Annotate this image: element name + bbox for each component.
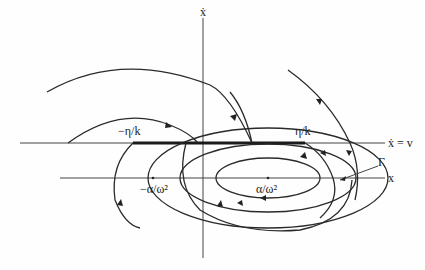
arrow-icon — [346, 150, 352, 156]
arrow-icon — [316, 99, 322, 105]
arrow-icon — [300, 152, 307, 159]
vertical-axis-label: ẋ — [200, 5, 206, 19]
arrow-icon — [230, 114, 237, 121]
pos-eta-k-label: η/k — [295, 124, 311, 138]
neg-equilibrium-dot — [152, 177, 155, 180]
arrow-icon — [237, 200, 243, 206]
gamma-label: Γ — [378, 155, 385, 169]
phase-portrait-svg: ẋ ẋ = v x −η/k η/k −α/ω² α/ω² Γ — [0, 0, 425, 270]
neg-alpha-omega-label: −α/ω² — [140, 182, 168, 196]
velocity-line-label: ẋ = v — [388, 136, 413, 150]
pos-equilibrium-dot — [267, 177, 270, 180]
arc-left-lower — [114, 143, 140, 228]
phase-portrait-figure: ẋ ẋ = v x −η/k η/k −α/ω² α/ω² Γ — [0, 0, 425, 270]
neg-eta-k-label: −η/k — [118, 124, 140, 138]
x-axis-label: x — [388, 171, 394, 185]
pos-alpha-omega-label: α/ω² — [256, 182, 278, 196]
arrow-icon — [217, 200, 223, 207]
arrow-icon — [117, 199, 123, 206]
